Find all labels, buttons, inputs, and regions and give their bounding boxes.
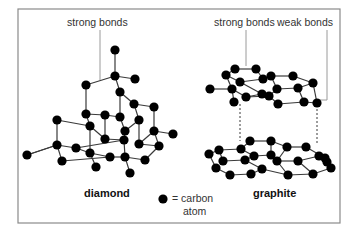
graphite-top-carbon-atom [258, 74, 267, 83]
graphite-top-carbon-atom [299, 97, 308, 106]
diamond-carbon-atom [134, 139, 143, 148]
diamond-carbon-atom [140, 155, 149, 164]
diamond-carbon-atom [110, 45, 119, 54]
graphite-bottom-carbon-atom [246, 169, 255, 178]
diamond-carbon-atom [22, 150, 31, 159]
diamond-carbon-atom [120, 126, 129, 135]
graphite-bottom-carbon-atom [236, 144, 245, 153]
graphite-top-carbon-atom [229, 97, 238, 106]
graphite-bottom-carbon-atom [245, 136, 254, 145]
graphite-bottom-carbon-atom [283, 170, 292, 179]
graphite-bottom-carbon-atom [211, 163, 220, 172]
graphite-strong-bonds-label: strong bonds [214, 16, 275, 28]
graphite-top-carbon-atom [273, 99, 282, 108]
graphite-top-carbon-atom [205, 84, 214, 93]
diamond-carbon-atom [52, 140, 61, 149]
diamond-carbon-atom [120, 152, 129, 161]
graphite-title: graphite [253, 187, 296, 199]
graphite-bottom-layer-atoms [204, 136, 335, 179]
diamond-carbon-atom [149, 126, 158, 135]
diamond-title: diamond [84, 187, 130, 199]
diamond-bond [57, 120, 90, 126]
diamond-carbon-atom [91, 162, 100, 171]
diamond-carbon-atom [57, 156, 66, 165]
graphite-top-carbon-atom [227, 84, 236, 93]
diamond-carbon-atom [81, 80, 90, 89]
graphite-bottom-carbon-atom [225, 170, 234, 179]
graphite-top-carbon-atom [308, 78, 317, 87]
diamond-carbon-atom [129, 99, 138, 108]
diamond-carbon-atom [81, 109, 90, 118]
diamond-carbon-atom [100, 110, 109, 119]
diamond-carbon-atom [110, 71, 119, 80]
legend-text-line1: = carbon [172, 192, 213, 204]
graphite-bottom-carbon-atom [214, 145, 223, 154]
graphite-bottom-carbon-atom [204, 149, 213, 158]
graphite-bottom-carbon-atom [293, 156, 302, 165]
diamond-carbon-atom [115, 87, 124, 96]
graphite-bottom-carbon-atom [266, 150, 275, 159]
graphite-top-carbon-atom [230, 64, 239, 73]
graphite-top-carbon-atom [221, 70, 230, 79]
graphite-weak-bonds-leader [318, 30, 327, 100]
graphite-bottom-carbon-atom [257, 164, 266, 173]
graphite-bottom-carbon-atom [218, 156, 227, 165]
legend: = carbon atom [158, 192, 213, 217]
graphite-top-carbon-atom [251, 64, 260, 73]
graphite-top-carbon-atom [272, 84, 281, 93]
diamond-carbon-atom [168, 129, 177, 138]
graphite-top-carbon-atom [293, 83, 302, 92]
diamond-strong-bonds-label: strong bonds [67, 16, 128, 28]
graphite-top-carbon-atom [235, 77, 244, 86]
graphite-top-carbon-atom [257, 89, 266, 98]
legend-atom-icon [158, 194, 167, 203]
diamond-carbon-atom [125, 168, 134, 177]
graphite-bottom-carbon-atom [282, 142, 291, 151]
diamond-carbon-atom [85, 121, 94, 130]
graphite-bottom-carbon-atom [301, 142, 310, 151]
diamond-bond [76, 140, 124, 148]
diamond-carbon-atom [154, 141, 163, 150]
graphite-top-carbon-atom [312, 98, 321, 107]
graphite-top-carbon-atom [266, 71, 275, 80]
legend-text-line2: atom [183, 205, 207, 217]
graphite-top-carbon-atom [241, 92, 250, 101]
graphite-bottom-carbon-atom [240, 155, 249, 164]
graphite-bottom-carbon-atom [266, 136, 275, 145]
diamond-carbon-atom [52, 115, 61, 124]
diamond-carbon-atom [85, 148, 94, 157]
graphite-weak-bonds-label: weak bonds [276, 16, 333, 28]
diamond-carbon-atom [115, 112, 124, 121]
graphite-bottom-carbon-atom [322, 157, 331, 166]
diamond-carbon-atom [119, 135, 128, 144]
diamond-carbon-atom [100, 134, 109, 143]
diamond-carbon-atom [130, 74, 139, 83]
diamond-carbon-atom [71, 143, 80, 152]
graphite-bottom-carbon-atom [308, 169, 317, 178]
carbon-allotropes-diagram: strong bonds strong bonds weak bonds dia… [0, 0, 351, 238]
diamond-carbon-atom [105, 152, 114, 161]
graphite-top-carbon-atom [288, 71, 297, 80]
graphite-bottom-carbon-atom [249, 151, 258, 160]
diamond-carbon-atom [134, 115, 143, 124]
diamond-bond [27, 145, 57, 155]
diamond-carbon-atom [149, 102, 158, 111]
diamond-bond [62, 157, 110, 161]
